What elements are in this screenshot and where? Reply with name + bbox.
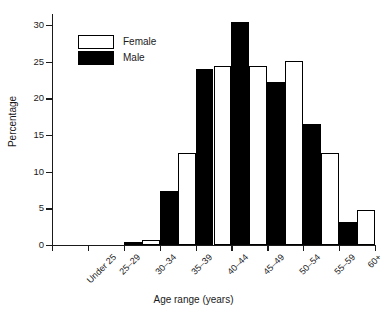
bar-female-55-59: [321, 153, 339, 245]
legend-item-male: Male: [78, 50, 156, 65]
bar-male-35-39: [160, 191, 178, 245]
bar-male-30-34: [124, 242, 142, 245]
y-axis-title: Percentage: [7, 77, 18, 167]
x-axis-tick: [124, 246, 125, 251]
bar-male-40-44: [196, 69, 214, 245]
x-axis-tick: [339, 246, 340, 251]
x-axis-label-30-34: 30–34: [153, 252, 178, 277]
x-axis-tick: [160, 246, 161, 251]
x-axis-label-55-59: 55–59: [333, 252, 358, 277]
bar-female-40-44: [214, 66, 232, 245]
x-axis-label-under-25: Under 25: [85, 252, 118, 285]
x-axis-title: Age range (years): [0, 294, 387, 305]
bar-male-60+: [339, 222, 357, 245]
x-axis-label-25-29: 25–29: [117, 252, 142, 277]
x-axis-tick: [231, 246, 232, 251]
x-axis-tick: [88, 246, 89, 251]
x-axis-label-50-54: 50–54: [297, 252, 322, 277]
chart-legend: Female Male: [78, 34, 156, 66]
bar-male-45-49: [231, 22, 249, 245]
x-axis-tick: [267, 246, 268, 251]
bar-female-45-49: [249, 66, 267, 245]
bar-male-50-54: [267, 82, 285, 245]
legend-item-female: Female: [78, 34, 156, 49]
x-axis-tick: [52, 246, 53, 251]
legend-label-female: Female: [123, 37, 156, 47]
bar-female-50-54: [285, 61, 303, 245]
legend-label-male: Male: [123, 53, 145, 63]
bar-female-35-39: [178, 153, 196, 245]
bar-male-55-59: [303, 124, 321, 245]
bar-chart: 051015202530 Under 2525–2930–3435–3940–4…: [0, 0, 387, 315]
x-axis-label-45-49: 45–49: [261, 252, 286, 277]
x-axis-label-40-44: 40–44: [225, 252, 250, 277]
x-axis-tick: [303, 246, 304, 251]
legend-swatch-male-icon: [78, 51, 114, 65]
legend-swatch-female-icon: [78, 35, 114, 49]
x-axis-label-60+: 60+: [366, 252, 384, 270]
bar-female-30-34: [142, 240, 160, 245]
x-axis-line: [52, 245, 376, 246]
bar-female-60+: [357, 210, 375, 245]
x-axis-tick: [375, 246, 376, 251]
x-axis-label-35-39: 35–39: [189, 252, 214, 277]
x-axis-tick: [196, 246, 197, 251]
